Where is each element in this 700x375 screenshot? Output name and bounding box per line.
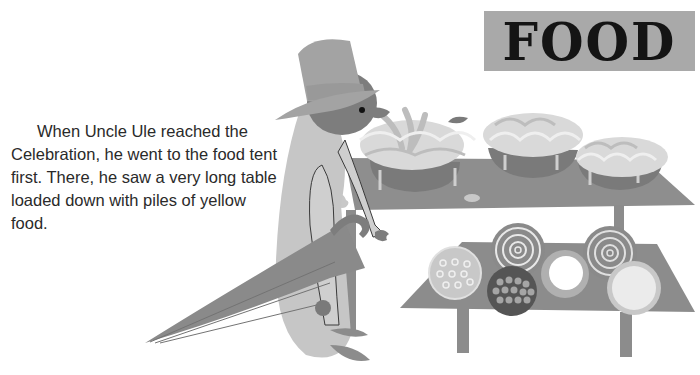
pie-berry <box>487 266 537 316</box>
pie-plain <box>607 261 661 315</box>
pie-cream <box>541 250 589 298</box>
pie-dotted <box>429 247 481 299</box>
illustration <box>0 0 700 375</box>
